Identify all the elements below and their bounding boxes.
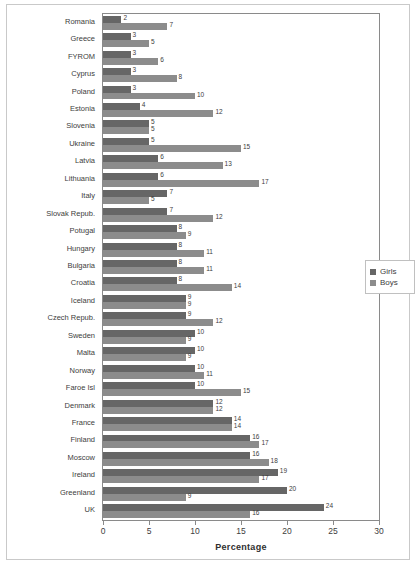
category-label: Iceland: [71, 297, 95, 305]
legend-swatch-girls: [370, 269, 376, 275]
bar-value-label-girls: 8: [179, 242, 183, 249]
bar-value-label-girls: 6: [160, 154, 164, 161]
bar-value-label-boys: 9: [188, 336, 192, 343]
category-label: Italy: [81, 192, 95, 200]
bar-value-label-girls: 6: [160, 172, 164, 179]
chart-legend: Girls Boys: [365, 260, 415, 294]
bar-value-label-girls: 3: [133, 85, 137, 92]
bar-girls: [103, 435, 250, 442]
bar-value-label-boys: 12: [215, 318, 222, 325]
legend-item-girls: Girls: [370, 267, 410, 276]
bar-boys: [103, 407, 213, 414]
bar-value-label-girls: 3: [133, 32, 137, 39]
category-label: Ukraine: [69, 140, 95, 148]
category-label: UK: [85, 506, 95, 514]
bar-value-label-girls: 16: [252, 451, 259, 458]
bar-girls: [103, 504, 324, 511]
bar-value-label-boys: 9: [188, 301, 192, 308]
x-axis-tick-label: 10: [190, 526, 199, 536]
bar-value-label-girls: 7: [169, 207, 173, 214]
bar-girls: [103, 330, 195, 337]
bar-boys: [103, 389, 241, 396]
category-label: Bulgaria: [67, 262, 95, 270]
bar-girls: [103, 225, 177, 232]
bar-value-label-girls: 4: [142, 102, 146, 109]
bar-girls: [103, 487, 287, 494]
x-axis-tick: [333, 521, 334, 525]
bar-value-label-boys: 18: [271, 458, 278, 465]
bar-girls: [103, 243, 177, 250]
category-label: Hungary: [67, 245, 95, 253]
x-axis-tick: [195, 521, 196, 525]
bar-value-label-boys: 9: [188, 231, 192, 238]
bar-boys: [103, 441, 259, 448]
bar-value-label-boys: 16: [252, 510, 259, 517]
bar-boys: [103, 93, 195, 100]
bar-boys: [103, 40, 149, 47]
bar-boys: [103, 494, 186, 501]
legend-label-boys: Boys: [380, 278, 398, 287]
bar-boys: [103, 110, 213, 117]
category-label: France: [72, 419, 95, 427]
category-label: Sweden: [68, 332, 95, 340]
bar-value-label-boys: 12: [215, 109, 222, 116]
bar-value-label-boys: 17: [261, 475, 268, 482]
bar-girls: [103, 469, 278, 476]
bar-value-label-girls: 3: [133, 67, 137, 74]
category-label: Finland: [70, 436, 95, 444]
bar-value-label-boys: 14: [234, 423, 241, 430]
bar-value-label-girls: 10: [197, 364, 204, 371]
category-label: Potugal: [70, 227, 95, 235]
category-label: Slovak Repub.: [46, 210, 95, 218]
bar-value-label-girls: 10: [197, 346, 204, 353]
bar-value-label-girls: 8: [179, 276, 183, 283]
bar-girls: [103, 295, 186, 302]
bar-girls: [103, 312, 186, 319]
bar-girls: [103, 33, 131, 40]
bar-boys: [103, 58, 158, 65]
bar-value-label-boys: 11: [206, 266, 213, 273]
bar-value-label-boys: 7: [169, 22, 173, 29]
bar-boys: [103, 215, 213, 222]
category-label: Czech Repub.: [47, 314, 95, 322]
x-axis-tick: [379, 521, 380, 525]
category-label: Greece: [70, 35, 95, 43]
x-axis-tick: [287, 521, 288, 525]
category-label: Ireland: [72, 471, 95, 479]
bar-girls: [103, 138, 149, 145]
bar-value-label-girls: 2: [123, 15, 127, 22]
bar-value-label-boys: 8: [179, 74, 183, 81]
category-label: Croatia: [71, 279, 95, 287]
bar-girls: [103, 51, 131, 58]
x-axis-tick-label: 5: [147, 526, 152, 536]
plot-wrapper: RomaniaGreeceFYROMCyprusPolandEstoniaSlo…: [7, 5, 411, 561]
x-axis-title: Percentage: [102, 542, 380, 552]
category-label: Malta: [77, 349, 95, 357]
bar-girls: [103, 417, 232, 424]
legend-item-boys: Boys: [370, 278, 410, 287]
bar-boys: [103, 23, 167, 30]
bar-boys: [103, 145, 241, 152]
category-label: Faroe Isl: [66, 384, 95, 392]
bar-value-label-boys: 13: [225, 161, 232, 168]
bar-value-label-boys: 15: [243, 388, 250, 395]
category-label: Greenland: [60, 489, 95, 497]
bar-girls: [103, 16, 121, 23]
plot-area: 2735363831041255515613617757128981181181…: [102, 13, 380, 521]
category-label: Latvia: [75, 157, 95, 165]
x-axis-tick: [149, 521, 150, 525]
bar-value-label-boys: 11: [206, 249, 213, 256]
category-label: Denmark: [65, 402, 95, 410]
bar-value-label-boys: 10: [197, 92, 204, 99]
bar-boys: [103, 250, 204, 257]
bar-boys: [103, 372, 204, 379]
category-axis-labels: RomaniaGreeceFYROMCyprusPolandEstoniaSlo…: [7, 13, 99, 521]
bar-boys: [103, 162, 223, 169]
bar-value-label-girls: 8: [179, 224, 183, 231]
bar-value-label-boys: 5: [151, 39, 155, 46]
bar-girls: [103, 103, 140, 110]
category-label: Romania: [65, 18, 95, 26]
bar-value-label-boys: 9: [188, 353, 192, 360]
category-label: Slovenia: [66, 122, 95, 130]
bar-value-label-boys: 9: [188, 493, 192, 500]
